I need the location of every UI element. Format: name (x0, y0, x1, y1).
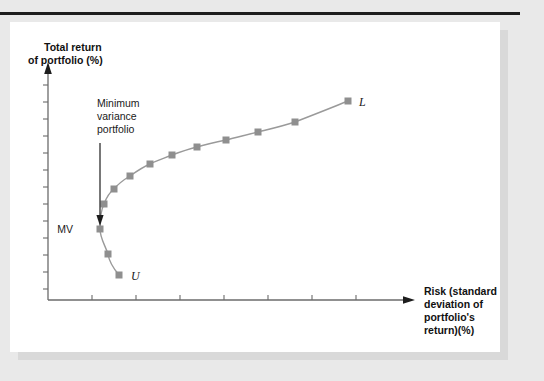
mv-annotation-line-3: portfolio (97, 123, 135, 135)
data-point-marker (292, 119, 299, 126)
data-point-marker (105, 251, 112, 258)
y-axis-title: Total return of portfolio (%) (28, 41, 103, 66)
y-axis-title-line-2: of portfolio (%) (28, 54, 103, 66)
data-point-marker (111, 186, 118, 193)
data-point-marker-upper-endpoint (345, 98, 352, 105)
mv-annotation-line-2: variance (97, 110, 137, 122)
data-point-marker (101, 201, 108, 208)
x-axis-ticks (92, 295, 356, 300)
mv-annotation-line-1: Minimum (97, 97, 140, 109)
efficient-frontier-chart: Total return of portfolio (%) Risk (stan… (0, 0, 544, 381)
mv-annotation-arrowhead-icon (96, 215, 103, 226)
figure-root: Total return of portfolio (%) Risk (stan… (0, 0, 544, 381)
mv-point-label: MV (57, 223, 73, 235)
frontier-curve (100, 101, 348, 275)
data-point-marker (169, 152, 176, 159)
y-axis-ticks (43, 85, 48, 289)
data-point-marker (255, 129, 262, 136)
y-axis-title-line-1: Total return (44, 41, 102, 53)
upper-endpoint-label: L (358, 95, 366, 109)
data-point-marker (194, 144, 201, 151)
frontier-data-points (97, 98, 352, 279)
x-axis-title-line-1: Risk (standard (424, 285, 497, 297)
lower-endpoint-label: U (131, 269, 141, 283)
data-point-marker (127, 173, 134, 180)
x-axis-title-line-2: deviation of (424, 298, 483, 310)
x-axis-title-line-3: portfolio's (424, 311, 475, 323)
x-axis-arrowhead-icon (403, 296, 415, 304)
x-axis-title-line-4: return)(%) (424, 324, 474, 336)
data-point-marker (223, 137, 230, 144)
data-point-marker-minimum-variance (97, 226, 104, 233)
data-point-marker (116, 272, 123, 279)
x-axis-title: Risk (standard deviation of portfolio's … (424, 285, 497, 336)
data-point-marker (147, 161, 154, 168)
